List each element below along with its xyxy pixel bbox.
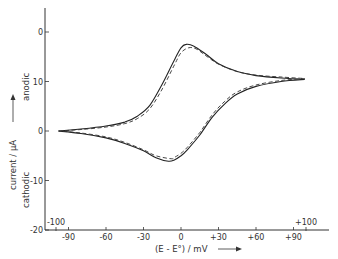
cathodic-label-group: cathodic [21, 171, 31, 208]
y-tick-label: 0 [38, 28, 43, 37]
x-tick-label: 0 [178, 233, 183, 242]
y-ticks: 0100-10-20 [30, 28, 49, 235]
x-tick-label: +60 [248, 233, 265, 242]
x-extra-tick-label: -100 [47, 218, 65, 227]
dashed-voltammogram-curve [59, 48, 305, 159]
solid-voltammogram-curve [59, 44, 305, 161]
x-tick-label: -30 [137, 233, 150, 242]
x-tick-label: +90 [285, 233, 302, 242]
x-tick-label: -60 [99, 233, 112, 242]
x-axis-label: (E - E°) / mV [155, 244, 208, 254]
y-tick-label: -20 [30, 226, 43, 235]
y-axis-label: current / μA [8, 140, 18, 190]
cathodic-label: cathodic [21, 171, 31, 208]
y-axis-label-group: current / μA [8, 94, 18, 190]
x-tick-label: +30 [210, 233, 227, 242]
x-axis-arrow-icon [236, 247, 242, 252]
cyclic-voltammogram-chart: 0100-10-20 -90-60-300+30+60+90-100+100 c… [0, 0, 338, 259]
x-extra-tick-label: +100 [295, 218, 317, 227]
y-axis-arrow-icon [11, 94, 16, 100]
anodic-label: anodic [21, 72, 31, 101]
y-tick-label: 10 [33, 78, 43, 87]
anodic-label-group: anodic [21, 72, 31, 101]
y-tick-label: -10 [30, 177, 43, 186]
y-tick-label: 0 [38, 127, 43, 136]
x-tick-label: -90 [62, 233, 75, 242]
